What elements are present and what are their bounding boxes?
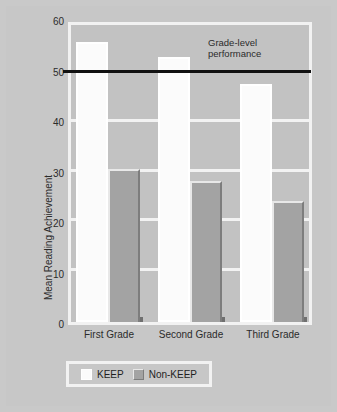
legend-swatch-keep-icon: [81, 369, 92, 380]
grade-level-annotation: Grade-level performance: [208, 37, 261, 59]
x-label-second-grade: Second Grade: [150, 329, 232, 340]
legend-swatch-nonkeep-icon: [133, 369, 144, 380]
y-tick-40: 40: [42, 118, 64, 128]
chart-figure: 60 50 40 30 20 10 0 Mean Reading Achieve…: [0, 0, 337, 412]
bar-keep-third-grade: [240, 84, 272, 322]
grade-level-reference-line: [63, 70, 311, 73]
plot-inner: Grade-level performance: [71, 25, 309, 322]
bar-nonkeep-third-grade: [272, 201, 304, 322]
legend-entry-keep: KEEP: [81, 369, 124, 380]
y-tick-50: 50: [42, 68, 64, 78]
x-label-third-grade: Third Grade: [232, 329, 314, 340]
bar-keep-first-grade: [76, 42, 108, 322]
y-axis-title-holder: Mean Reading Achievement: [22, 80, 38, 260]
legend-label-nonkeep: Non-KEEP: [149, 369, 197, 380]
grade-level-annotation-line2: performance: [208, 48, 261, 59]
bar-nonkeep-second-grade: [190, 181, 222, 322]
bar-keep-second-grade: [158, 57, 190, 322]
plot-area: Grade-level performance: [68, 22, 312, 325]
x-label-first-grade: First Grade: [68, 329, 150, 340]
legend-label-keep: KEEP: [97, 369, 124, 380]
legend-entry-nonkeep: Non-KEEP: [133, 369, 197, 380]
grade-level-annotation-line1: Grade-level: [208, 37, 261, 48]
chart-legend: KEEP Non-KEEP: [66, 361, 212, 387]
y-tick-60: 60: [42, 17, 64, 27]
x-axis-labels: First Grade Second Grade Third Grade: [68, 329, 312, 345]
y-axis-title: Mean Reading Achievement: [43, 148, 54, 328]
bar-nonkeep-first-grade: [108, 169, 140, 323]
